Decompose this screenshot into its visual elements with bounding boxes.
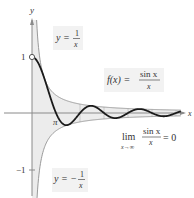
svg-text:x: x (148, 138, 153, 147)
svg-text:f(x) =: f(x) = (107, 74, 130, 86)
upper-envelope-label: y = 1 x (53, 26, 83, 50)
svg-text:x: x (73, 40, 78, 49)
svg-text:sin x: sin x (143, 126, 161, 136)
y-tick-label-neg1: −1 (16, 165, 26, 175)
y-axis-label: y (29, 5, 34, 15)
svg-text:x: x (78, 181, 83, 190)
svg-text:lim: lim (122, 131, 136, 142)
lower-envelope-label: y = − 1 x (52, 168, 88, 192)
sinx-over-x-diagram: y x 1 −1 π y = 1 x y = − 1 x f(x) = sin … (0, 0, 194, 198)
limit-label: lim x→∞ sin x x = 0 (120, 126, 176, 150)
y-tick-label-1: 1 (21, 52, 26, 62)
x-axis-arrow-icon (180, 111, 186, 115)
open-point-icon (29, 54, 34, 59)
svg-text:= 0: = 0 (163, 132, 176, 143)
svg-text:y =: y = (55, 32, 70, 43)
function-label: f(x) = sin x x (104, 68, 164, 92)
svg-text:1: 1 (80, 170, 84, 179)
svg-text:x: x (146, 82, 151, 91)
svg-text:x→∞: x→∞ (120, 144, 135, 150)
x-tick-label-pi: π (53, 117, 58, 127)
svg-text:1: 1 (75, 29, 79, 38)
svg-text:sin x: sin x (140, 69, 158, 79)
x-axis-label: x (187, 109, 192, 118)
svg-text:y = −: y = − (53, 173, 77, 184)
